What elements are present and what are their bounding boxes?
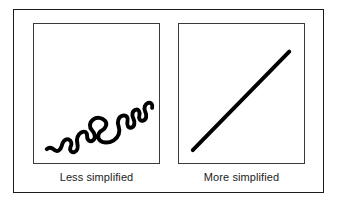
straight-diagonal-line-path <box>193 52 289 151</box>
panel-less-simplified: Less simplified <box>33 23 160 184</box>
figure-outer-frame: Less simplified More simplified <box>13 9 324 193</box>
more-simplified-illustration <box>179 24 304 163</box>
panel-more-simplified: More simplified <box>178 23 305 184</box>
panel-box-more-simplified <box>178 23 305 164</box>
less-simplified-illustration <box>34 24 159 163</box>
panel-container: Less simplified More simplified <box>14 10 325 194</box>
panel-box-less-simplified <box>33 23 160 164</box>
panel-caption-more-simplified: More simplified <box>178 164 305 184</box>
panel-caption-less-simplified: Less simplified <box>33 164 160 184</box>
sinuous-winding-line-path <box>47 103 153 153</box>
figure-root: Less simplified More simplified <box>0 0 338 205</box>
